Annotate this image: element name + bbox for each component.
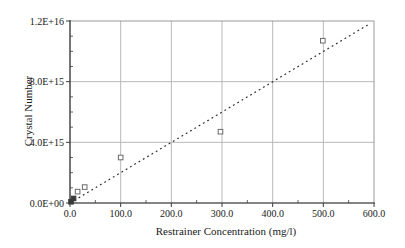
y-tick-label: 1.2E+16: [30, 16, 64, 27]
x-tick-label: 500.0: [312, 208, 335, 219]
data-point-marker: [82, 185, 87, 190]
x-tick-label: 0.0: [64, 208, 77, 219]
chart-figure: 0.0100.0200.0300.0400.0500.0600.00.0E+00…: [0, 0, 405, 248]
data-point-marker: [118, 155, 123, 160]
y-tick-label: 0.0E+00: [30, 198, 64, 209]
y-tick-label: 4.0E+15: [30, 137, 64, 148]
x-tick-label: 200.0: [160, 208, 183, 219]
scatter-plot: 0.0100.0200.0300.0400.0500.0600.00.0E+00…: [0, 0, 405, 248]
x-tick-label: 100.0: [109, 208, 132, 219]
y-tick-label: 8.0E+15: [30, 76, 64, 87]
x-tick-label: 300.0: [211, 208, 234, 219]
x-axis-title: Restrainer Concentration (mg/l): [156, 225, 297, 237]
data-point-marker: [75, 189, 80, 194]
x-tick-label: 400.0: [261, 208, 284, 219]
data-point-marker: [321, 38, 326, 43]
data-point-marker: [71, 196, 76, 201]
data-point-marker: [218, 129, 223, 134]
x-tick-label: 600.0: [363, 208, 386, 219]
y-axis-title: Crystal Number: [22, 76, 34, 147]
